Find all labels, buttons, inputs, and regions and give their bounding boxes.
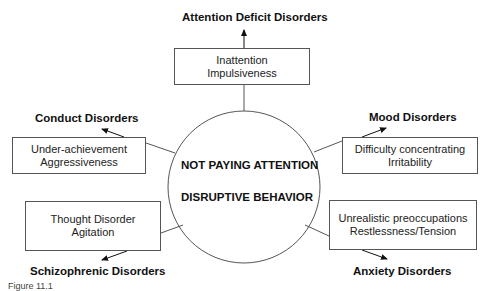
symptom-text: Irritability xyxy=(388,156,432,169)
center-label-primary: NOT PAYING ATTENTION xyxy=(181,159,307,171)
symptom-box-top: Inattention Impulsiveness xyxy=(174,48,310,85)
symptom-box-lower-right: Unrealistic preoccupations Restlessness/… xyxy=(329,200,477,250)
disorder-label-anxiety: Anxiety Disorders xyxy=(353,265,451,277)
figure-caption: Figure 11.1 xyxy=(8,281,53,291)
arrow-upper-left xyxy=(102,129,124,137)
arrow-lower-left xyxy=(102,251,127,260)
symptom-text: Under-achievement xyxy=(31,143,127,156)
symptom-text: Agitation xyxy=(72,226,115,239)
disorder-label-mood: Mood Disorders xyxy=(369,111,457,123)
connector-upper-left xyxy=(146,143,175,153)
connector-upper-right xyxy=(314,141,342,152)
symptom-text: Thought Disorder xyxy=(51,213,136,226)
disorder-label-schizophrenic: Schizophrenic Disorders xyxy=(30,265,165,277)
disorder-label-conduct: Conduct Disorders xyxy=(35,112,139,124)
symptom-text: Impulsiveness xyxy=(207,67,277,80)
symptom-box-upper-left: Under-achievement Aggressiveness xyxy=(12,137,146,174)
symptom-text: Restlessness/Tension xyxy=(350,225,456,238)
symptom-box-lower-left: Thought Disorder Agitation xyxy=(25,201,161,251)
center-label-secondary: DISRUPTIVE BEHAVIOR xyxy=(181,191,307,203)
symptom-box-upper-right: Difficulty concentrating Irritability xyxy=(342,137,478,174)
connector-lower-right xyxy=(305,225,329,236)
arrow-lower-right xyxy=(362,250,387,259)
arrow-upper-right xyxy=(362,128,386,137)
disorder-label-attention-deficit: Attention Deficit Disorders xyxy=(182,11,328,23)
center-circle xyxy=(168,111,320,263)
symptom-text: Aggressiveness xyxy=(40,156,118,169)
symptom-text: Unrealistic preoccupations xyxy=(338,212,467,225)
symptom-text: Difficulty concentrating xyxy=(355,143,465,156)
connector-lower-left xyxy=(161,225,183,233)
symptom-text: Inattention xyxy=(216,54,267,67)
